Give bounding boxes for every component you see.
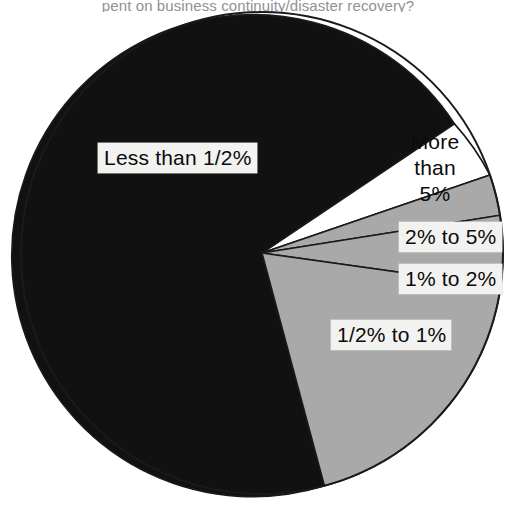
pie-label-more-than-5-line2: than [397, 155, 473, 181]
pie-label-more-than-5-line1: More [397, 129, 473, 155]
pie-label-more-than-5-line3: 5% [397, 181, 473, 207]
pie-chart-svg [0, 0, 516, 505]
pie-label-half-to-1: 1/2% to 1% [331, 320, 451, 350]
pie-label-2-to-5: 2% to 5% [399, 222, 502, 252]
pie-label-1-to-2: 1% to 2% [399, 264, 502, 294]
pie-label-more-than-5: More than 5% [397, 129, 473, 207]
pie-label-less-than-half: Less than 1/2% [98, 143, 257, 173]
pie-chart-figure: pent on business continuity/disaster rec… [0, 0, 516, 505]
